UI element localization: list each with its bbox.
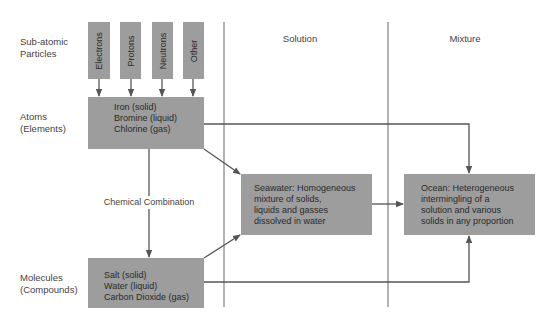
seawater-box: Seawater: Homogeneous mixture of solids,…: [241, 174, 372, 235]
molecules-box: Salt (solid) Water (liquid) Carbon Dioxi…: [88, 258, 204, 308]
atoms-box: Iron (solid) Bromine (liquid) Chlorine (…: [88, 97, 204, 149]
particle-box-other: Other: [183, 22, 204, 79]
particle-label-protons: Protons: [126, 35, 136, 66]
molecules-item-water: Water (liquid): [104, 281, 204, 292]
ocean-text-line2: intermingling of a: [421, 194, 535, 205]
seawater-text-line4: dissolved in water: [254, 216, 372, 227]
atoms-item-bromine: Bromine (liquid): [114, 113, 204, 124]
particle-label-neutrons: Neutrons: [158, 32, 168, 69]
row-label-molecules-line1: Molecules: [20, 272, 78, 284]
seawater-text-line3: liquids and gasses: [254, 205, 372, 216]
row-label-subatomic: Sub-atomic Particles: [20, 36, 68, 60]
column-label-solution: Solution: [260, 33, 340, 44]
particle-label-electrons: Electrons: [94, 32, 104, 70]
particle-label-other: Other: [189, 39, 199, 62]
row-label-molecules-line2: (Compounds): [20, 284, 78, 296]
row-label-subatomic-line2: Particles: [20, 48, 68, 60]
ocean-text-line3: solution and various: [421, 205, 535, 216]
row-label-molecules: Molecules (Compounds): [20, 272, 78, 296]
row-label-atoms-line1: Atoms: [20, 111, 66, 123]
seawater-text-line2: mixture of solids,: [254, 194, 372, 205]
atoms-item-iron: Iron (solid): [114, 102, 204, 113]
ocean-box: Ocean: Heterogeneous intermingling of a …: [404, 174, 535, 235]
ocean-text-line4: solids in any proportion: [421, 216, 535, 227]
connector-lines: [0, 0, 558, 320]
ocean-text-line1: Ocean: Heterogeneous: [421, 183, 535, 194]
particle-box-electrons: Electrons: [88, 22, 110, 79]
particle-box-neutrons: Neutrons: [152, 22, 173, 79]
atoms-item-chlorine: Chlorine (gas): [114, 124, 204, 135]
row-label-atoms-line2: (Elements): [20, 123, 66, 135]
column-label-mixture: Mixture: [425, 33, 505, 44]
seawater-text-line1: Seawater: Homogeneous: [254, 183, 372, 194]
molecules-item-carbon-dioxide: Carbon Dioxide (gas): [104, 292, 204, 303]
row-label-subatomic-line1: Sub-atomic: [20, 36, 68, 48]
chemical-combination-label: Chemical Combination: [100, 197, 198, 207]
molecules-item-salt: Salt (solid): [104, 270, 204, 281]
particle-box-protons: Protons: [120, 22, 141, 79]
row-label-atoms: Atoms (Elements): [20, 111, 66, 135]
